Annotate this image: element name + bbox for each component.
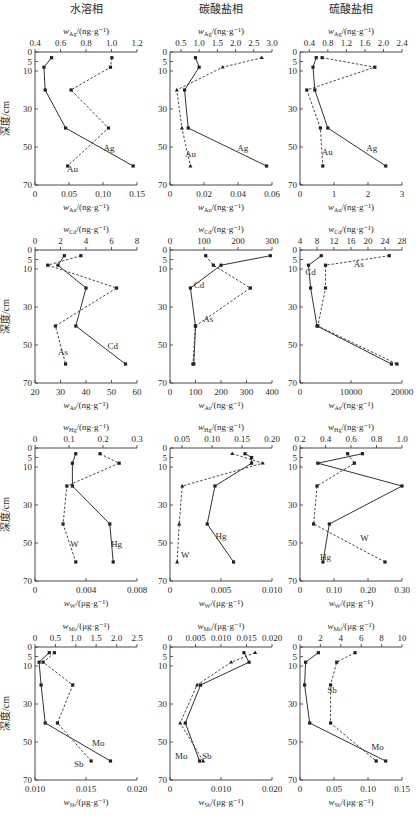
data-point-marker [243,452,246,455]
series-label-Hg: Hg [216,531,227,541]
column-title: 水溶相 [70,2,103,15]
data-point-marker [177,522,181,526]
top-tick-label: 0 [33,236,38,246]
top-tick-label: 6 [109,236,114,246]
data-point-marker [247,661,250,664]
data-point-marker [180,484,184,488]
top-axis-label: wMo/(μg·g⁻¹) [62,621,109,632]
bottom-tick-label: 0.06 [264,189,280,199]
data-point-marker [395,362,398,365]
data-point-marker [213,484,216,487]
y-tick-label: 5 [28,57,33,67]
data-point-marker [109,759,112,762]
bottom-tick-label: 20 [31,387,41,397]
data-point-marker [84,286,87,289]
data-point-marker [204,254,207,257]
data-point-marker [320,254,323,257]
y-tick-label: 50 [158,142,168,152]
top-axis-label: wMo/(μg·g⁻¹) [197,621,244,632]
data-point-marker [198,759,201,762]
y-tick-label: 30 [23,699,33,709]
y-tick-label: 50 [23,340,33,350]
data-point-marker [253,651,257,655]
data-point-marker [79,254,82,257]
y-tick-label: 0 [163,443,168,453]
panel-0-0: 05103050700.40.60.81.01.2wAg/(ng·g⁻¹)00.… [0,26,145,213]
y-tick-label: 70 [23,576,33,586]
y-axis-label: 深度/cm [0,696,11,731]
y-tick-label: 50 [288,737,298,747]
y-axis-label: 深度/cm [0,299,11,334]
series-label-As: As [58,347,68,357]
top-tick-label: 0.8 [371,434,383,444]
top-axis-label: wAg/(ng·g⁻¹) [328,26,374,37]
series-label-W: W [70,539,79,549]
data-point-marker [212,264,215,267]
top-tick-label: 2.0 [111,633,123,643]
y-tick-label: 5 [293,453,298,463]
data-point-marker [64,126,67,129]
data-point-marker [40,683,43,686]
y-tick-label: 5 [28,255,33,265]
y-tick-label: 0 [163,47,168,57]
y-tick-label: 10 [288,661,298,671]
top-tick-label: 10 [398,633,408,643]
y-tick-label: 10 [23,462,33,472]
y-tick-label: 30 [288,302,298,312]
y-tick-label: 30 [158,302,168,312]
data-point-marker [335,661,338,664]
series-label-W: W [181,550,190,560]
data-point-marker [375,759,378,762]
panel-3-0: 051030507000.51.01.52.02.5wMo/(μg·g⁻¹)0.… [0,621,148,808]
top-tick-label: 0 [33,633,38,643]
data-point-marker [37,661,40,664]
bottom-tick-label: 0 [168,784,173,794]
bottom-tick-label: 0 [168,189,173,199]
y-tick-label: 5 [293,652,298,662]
bottom-tick-label: 300 [240,387,254,397]
y-tick-label: 30 [288,699,298,709]
y-tick-label: 5 [163,453,168,463]
series-label-Au: Au [67,164,78,174]
data-point-marker [187,126,190,129]
data-point-marker [71,462,74,465]
data-point-marker [383,560,386,563]
bottom-tick-label: 20000 [391,387,414,397]
y-tick-label: 0 [163,245,168,255]
data-point-marker [194,56,197,59]
data-point-marker [250,462,253,465]
top-tick-label: 0.8 [80,38,92,48]
series-line-W [177,454,263,562]
data-point-marker [353,651,356,654]
top-tick-label: 8 [315,236,320,246]
data-point-marker [316,462,319,465]
data-point-marker [321,164,324,167]
top-tick-label: 1.0 [106,38,118,48]
bottom-tick-label: 400 [265,387,279,397]
series-label-W: W [360,533,369,543]
bottom-axis-label: wAu/(ng·g⁻¹) [63,202,109,213]
y-tick-label: 30 [158,500,168,510]
y-tick-label: 50 [288,142,298,152]
data-point-marker [206,522,209,525]
data-point-marker [74,324,77,327]
series-label-Sb: Sb [202,751,212,761]
data-point-marker [110,56,113,59]
top-tick-label: 1.2 [131,38,142,48]
y-tick-label: 30 [288,104,298,114]
data-point-marker [191,362,194,365]
panel-0-1: 05103050700.51.01.52.02.53.0wAg/(ng·g⁻¹)… [158,26,280,213]
top-tick-label: 20 [364,236,374,246]
data-point-marker [107,126,110,129]
series-label-Ag: Ag [366,143,377,153]
y-tick-label: 10 [158,264,168,274]
top-tick-label: 4 [339,633,344,643]
top-tick-label: 4 [298,236,303,246]
bottom-tick-label: 0.020 [127,784,148,794]
y-tick-label: 0 [28,47,33,57]
top-axis-label: wCd/(ng·g⁻¹) [63,224,108,235]
data-point-marker [326,126,329,129]
y-tick-label: 70 [288,576,298,586]
top-axis-label: wHg/(ng·g⁻¹) [328,422,374,433]
top-tick-label: 0.3 [131,434,143,444]
